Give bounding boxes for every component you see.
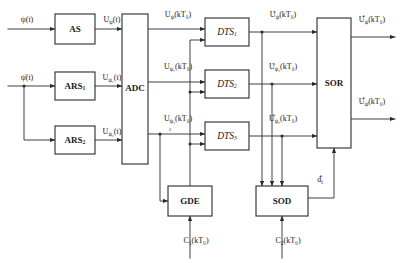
junction-dot-gde-tap — [159, 133, 162, 136]
wire-gde-to-dts1 — [190, 40, 205, 186]
signal-label-c2: C2(kT₀) — [275, 236, 300, 246]
signal-label-u-psi-t: Uψ(t) — [104, 15, 121, 25]
block-label-as: AS — [69, 24, 81, 34]
block-layer — [55, 14, 351, 216]
junction-dot-dts1 — [261, 31, 264, 34]
wire-sod-to-sor — [308, 148, 334, 198]
junction-dot-bus-dts3 — [189, 143, 192, 146]
signal-label-in-psi: ψ(t) — [21, 15, 34, 24]
junction-dot-dts2 — [271, 83, 274, 86]
signal-label-out-psi: ˆUψ(kT₀) — [359, 15, 386, 25]
block-label-sor: SOR — [325, 78, 344, 88]
signal-label-ut-psi-k: ˜Uψ(kT₀) — [270, 10, 297, 20]
block-label-ars1: ARS1 — [65, 81, 86, 91]
signal-label-c1: C1(kT₀) — [183, 236, 208, 246]
junction-dot-bus-dts2 — [189, 91, 192, 94]
block-label-gde: GDE — [180, 196, 200, 206]
wire-adc-to-gde — [160, 134, 168, 201]
signal-label-in-psidot: ψ̇(t) — [21, 73, 34, 82]
block-label-adc: ADC — [125, 83, 145, 93]
block-label-layer: AS ARS1 ARS2 ADC DTS1 DTS2 DTS3 SOR GDE … — [65, 24, 344, 206]
signal-label-uh-psi2-k: ˆUψ₂(kT₀) — [269, 114, 298, 124]
block-label-dts3: DTS3 — [216, 131, 237, 141]
block-label-sod: SOD — [273, 196, 292, 206]
diagram-svg: AS ARS1 ARS2 ADC DTS1 DTS2 DTS3 SOR GDE … — [0, 0, 401, 263]
signal-label-u-psi2-k: Uψ₂(kT₀) — [164, 114, 193, 124]
signal-label-u-psi1-k: Uψ₁(kT₀) — [164, 62, 193, 72]
block-label-dts2: DTS2 — [216, 79, 237, 89]
junction-dot-dts3 — [281, 135, 284, 138]
wire-psidot-branch-to-ars2 — [24, 86, 55, 140]
junction-dot-psidot — [23, 85, 26, 88]
signal-label-d-hat: ˆdi — [317, 175, 323, 185]
signal-label-u-psi2-t: Uψ₂(t) — [103, 127, 122, 137]
block-diagram-canvas: AS ARS1 ARS2 ADC DTS1 DTS2 DTS3 SOR GDE … — [0, 0, 401, 263]
signal-label-u-psi-k: Uψ(kT₀) — [165, 10, 192, 20]
block-label-dts1: DTS1 — [216, 27, 237, 37]
signal-label-ut-psi1-k: ˜Uψ₁(kT₀) — [269, 62, 298, 72]
signal-label-u-psi1-t: Uψ₁(t) — [103, 73, 122, 83]
signal-label-out-psidot: ˆUψ̇(kT₀) — [359, 97, 386, 107]
block-label-ars2: ARS2 — [65, 135, 86, 145]
signal-label-mark-one: 1 — [169, 127, 172, 132]
